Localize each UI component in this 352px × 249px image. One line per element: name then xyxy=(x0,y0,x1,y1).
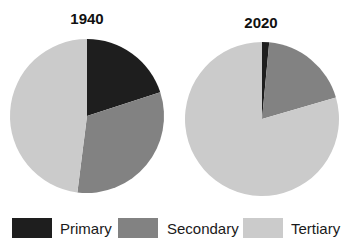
legend-swatch-tertiary xyxy=(243,218,283,238)
legend-label-primary: Primary xyxy=(60,220,112,237)
legend-label-secondary: Secondary xyxy=(167,220,239,237)
slice-tertiary xyxy=(10,39,87,192)
pie-charts xyxy=(0,0,352,210)
legend: Primary Secondary Tertiary xyxy=(10,212,350,242)
legend-label-tertiary: Tertiary xyxy=(291,220,340,237)
legend-swatch-primary xyxy=(12,218,52,238)
pie-2020 xyxy=(185,42,339,196)
legend-swatch-secondary xyxy=(118,218,158,238)
pie-1940 xyxy=(10,39,164,193)
